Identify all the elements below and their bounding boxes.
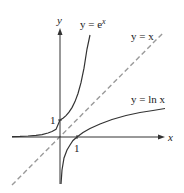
- identity-line: [12, 33, 163, 185]
- x-axis-label: x: [167, 131, 173, 143]
- x-tick-label: 1: [74, 142, 80, 154]
- exp-curve-label: y = ex: [80, 17, 106, 30]
- y-tick-label: 1: [50, 114, 56, 126]
- identity-line-label: y = x: [131, 30, 154, 42]
- ln-curve-label: y = ln x: [131, 93, 166, 105]
- exp-label-exponent: x: [101, 17, 106, 26]
- function-graph: y x 1 1 y = ex y = x y = ln x: [0, 0, 184, 193]
- y-axis-arrow-icon: [58, 28, 63, 35]
- exp-label-base: y = e: [80, 18, 102, 30]
- x-axis-arrow-icon: [158, 135, 165, 140]
- y-axis-label: y: [56, 14, 62, 26]
